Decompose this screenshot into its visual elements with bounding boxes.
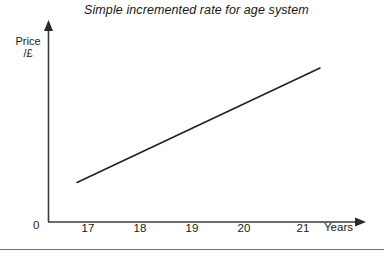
page-title: Simple incremented rate for age system xyxy=(84,4,309,18)
x-tick-label-18: 18 xyxy=(125,222,155,234)
x-axis-arrow-icon xyxy=(355,218,366,227)
x-tick-label-17: 17 xyxy=(73,222,103,234)
x-tick-label-21: 21 xyxy=(288,222,318,234)
y-axis-label-text: Price xyxy=(15,35,40,47)
y-axis-arrow-icon xyxy=(44,20,53,31)
footer-divider xyxy=(0,249,384,250)
x-tick-label-20: 20 xyxy=(229,222,259,234)
chart-figure: Simple incremented rate for age system P… xyxy=(0,0,384,261)
y-axis-unit-text: /£ xyxy=(9,48,47,60)
data-line-price xyxy=(77,68,320,183)
origin-label: 0 xyxy=(33,219,39,231)
x-axis-label: Years xyxy=(324,221,353,233)
y-axis-label: Price/£ xyxy=(9,36,47,60)
x-tick-label-19: 19 xyxy=(177,222,207,234)
